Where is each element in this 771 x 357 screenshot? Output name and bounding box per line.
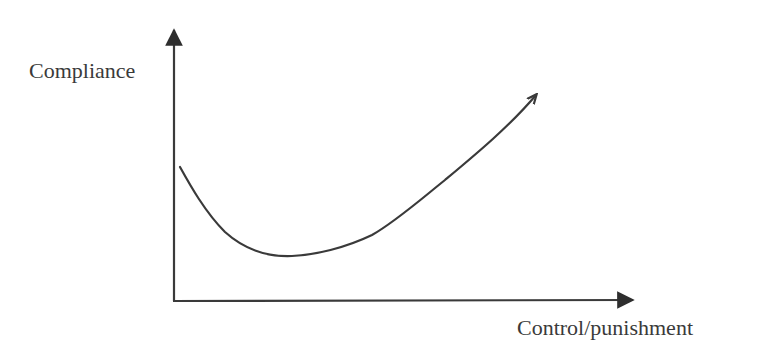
y-axis-label: Compliance: [29, 60, 135, 82]
x-axis: [173, 300, 633, 301]
compliance-curve: [180, 95, 536, 256]
x-axis-label: Control/punishment: [517, 317, 693, 339]
chart-svg: [0, 0, 771, 357]
chart-container: Compliance Control/punishment: [0, 0, 771, 357]
